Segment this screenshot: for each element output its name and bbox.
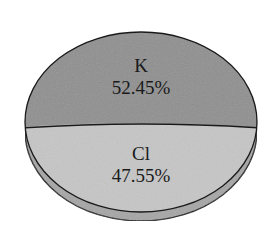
slice-cl-percent: 47.55% — [81, 165, 201, 187]
slice-k-name: K — [81, 55, 201, 77]
slice-k-percent: 52.45% — [81, 77, 201, 99]
pie-chart — [0, 0, 273, 229]
slice-label-k: K 52.45% — [81, 55, 201, 99]
slice-cl-name: Cl — [81, 143, 201, 165]
slice-label-cl: Cl 47.55% — [81, 143, 201, 187]
